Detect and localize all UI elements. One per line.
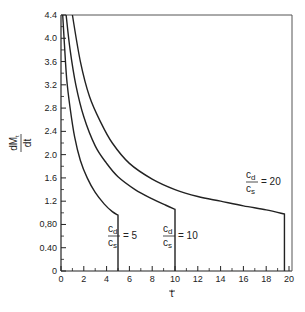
plot-frame <box>61 15 292 271</box>
y-tick-label: 1.2 <box>44 196 57 206</box>
y-axis-label: dMt dt <box>8 134 33 152</box>
y-tick-label: 1.6 <box>44 173 57 183</box>
svg-text:cs: cs <box>246 183 255 196</box>
curve-annotations: cdcs= 5cdcs= 10cdcs= 20 <box>108 169 281 250</box>
svg-text:cs: cs <box>163 237 172 250</box>
x-tick-label: 12 <box>193 274 203 284</box>
svg-text:= 10: = 10 <box>178 230 198 241</box>
y-tick-label: 0,80 <box>39 219 57 229</box>
svg-text:= 20: = 20 <box>261 176 281 187</box>
x-axis-ticks: 02468101214161820 <box>58 266 294 284</box>
y-tick-label: 2.8 <box>44 103 57 113</box>
x-tick-label: 4 <box>104 274 109 284</box>
x-tick-label: 0 <box>58 274 63 284</box>
y-tick-label: 2.0 <box>44 150 57 160</box>
y-tick-label: 4.0 <box>44 33 57 43</box>
y-tick-label: 2.4 <box>44 126 57 136</box>
x-tick-label: 2 <box>81 274 86 284</box>
x-tick-label: 6 <box>127 274 132 284</box>
svg-text:= 5: = 5 <box>123 230 138 241</box>
svg-text:cd: cd <box>108 223 117 236</box>
y-tick-label: 0 <box>52 266 57 276</box>
x-tick-label: 14 <box>216 274 226 284</box>
x-tick-label: 10 <box>170 274 180 284</box>
curve-cd-cs-10 <box>66 15 175 271</box>
annotation-cd-cs-10: cdcs= 10 <box>163 223 198 250</box>
svg-text:cd: cd <box>163 223 172 236</box>
svg-text:dMt: dMt <box>8 135 20 151</box>
x-tick-label: 20 <box>284 274 294 284</box>
annotation-cd-cs-5: cdcs= 5 <box>108 223 138 250</box>
svg-text:cd: cd <box>246 169 255 182</box>
x-tick-label: 8 <box>150 274 155 284</box>
y-tick-label: 3.2 <box>44 80 57 90</box>
y-tick-label: 3.6 <box>44 57 57 67</box>
chart: 00.400,801.21.62.02.42.83.23.64.04.4 024… <box>0 0 305 312</box>
y-axis-label-top: dM <box>8 137 19 151</box>
svg-text:cs: cs <box>108 237 117 250</box>
curves <box>63 15 285 271</box>
x-tick-label: 18 <box>261 274 271 284</box>
y-tick-label: 0.40 <box>39 243 57 253</box>
y-tick-label: 4.4 <box>44 10 57 20</box>
x-tick-label: 16 <box>238 274 248 284</box>
y-axis-ticks: 00.400,801.21.62.02.42.83.23.64.04.4 <box>39 10 66 276</box>
annotation-cd-cs-20: cdcs= 20 <box>246 169 281 196</box>
y-axis-label-bottom: dt <box>22 139 33 148</box>
x-axis-label: t <box>171 288 174 299</box>
